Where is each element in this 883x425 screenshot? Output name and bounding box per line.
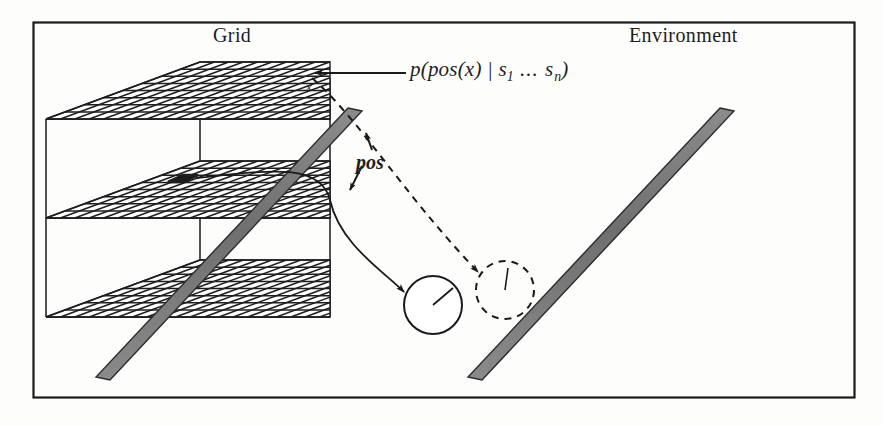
hypothesized-position-marker [476,261,534,319]
x-label: x [306,80,312,93]
formula-sub-first: 1 [507,69,514,84]
wall-grid-panel [96,108,362,380]
formula-tail: ) [561,57,568,81]
robot-position-marker [404,276,462,334]
wall-environment-panel [468,108,734,380]
panel-title-grid: Grid [213,25,251,45]
pos-label: pos [356,152,384,172]
probability-formula-label: p(pos(x) | s1 ... sn) [410,59,568,84]
figure-root: Grid Environment p(pos(x) | s1 ... sn) p… [0,0,883,425]
x-to-hypothesis-curve [312,78,478,272]
formula-mid: ... s [514,57,554,81]
panel-title-environment: Environment [629,25,738,45]
formula-lead: p(pos(x) | s [410,57,507,81]
grid-plane-top [46,62,330,119]
